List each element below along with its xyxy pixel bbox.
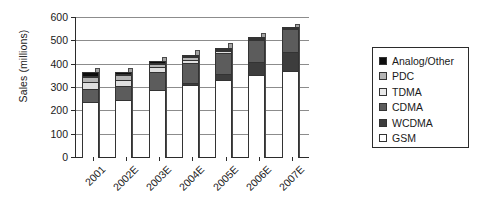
stacked-bar-chart: Sales (millions) 01002003004005006002001… xyxy=(0,0,479,216)
x-axis-tick xyxy=(192,157,193,161)
legend-swatch-analog-other xyxy=(379,57,387,65)
x-axis-tick xyxy=(126,157,127,161)
bar-segment-cdma xyxy=(182,63,199,84)
y-axis-tick-label: 500 xyxy=(50,34,68,46)
bar-group: 2001 xyxy=(76,17,109,157)
bar-group: 2004E xyxy=(176,17,209,157)
bar-group: 2002E xyxy=(109,17,142,157)
legend-label: GSM xyxy=(392,133,416,144)
y-axis-tick-label: 400 xyxy=(50,58,68,70)
plot-area: 010020030040050060020012002E2003E2004E20… xyxy=(75,17,309,158)
x-axis-tick xyxy=(159,157,160,161)
bar-segment-cdma xyxy=(215,53,232,75)
x-axis-tick-label: 2006E xyxy=(244,163,274,193)
x-axis-tick-label: 2001 xyxy=(82,163,107,188)
legend-item: PDC xyxy=(379,69,468,85)
legend-item: TDMA xyxy=(379,84,468,100)
stacked-bar xyxy=(248,33,265,157)
bar-segment-gsm xyxy=(215,80,232,158)
y-axis-tick-label: 300 xyxy=(50,81,68,93)
y-axis-tick xyxy=(71,157,76,158)
x-axis-tick xyxy=(259,157,260,161)
chart-legend: Analog/OtherPDCTDMACDMAWCDMAGSM xyxy=(372,47,469,148)
x-axis-tick-label: 2003E xyxy=(144,163,174,193)
bar-segment-cdma xyxy=(115,86,132,101)
bar-segment-cdma xyxy=(282,29,299,52)
bar-segment-cdma xyxy=(149,72,166,92)
bar-segment-wcdma xyxy=(248,62,265,76)
bar-segment-gsm xyxy=(149,90,166,158)
y-axis-tick-label: 200 xyxy=(50,104,68,116)
x-axis-tick xyxy=(226,157,227,161)
x-axis-tick-label: 2004E xyxy=(177,163,207,193)
stacked-bar xyxy=(215,43,232,157)
legend-item: Analog/Other xyxy=(379,53,468,69)
bar-segment-wcdma xyxy=(282,52,299,72)
y-axis-title: Sales (millions) xyxy=(17,11,29,121)
legend-swatch-wcdma xyxy=(379,119,387,127)
legend-item: CDMA xyxy=(379,100,468,116)
legend-label: TDMA xyxy=(392,87,422,98)
stacked-bar xyxy=(282,24,299,157)
y-axis-tick-label: 0 xyxy=(62,151,68,163)
x-axis-tick xyxy=(93,157,94,161)
bar-segment-gsm xyxy=(282,71,299,159)
bar-segment-gsm xyxy=(115,100,132,158)
bar-segment-gsm xyxy=(248,75,265,158)
x-axis-tick xyxy=(292,157,293,161)
legend-item: WCDMA xyxy=(379,115,468,131)
legend-swatch-gsm xyxy=(379,134,387,142)
bar-group: 2003E xyxy=(143,17,176,157)
stacked-bar xyxy=(149,57,166,157)
stacked-bar xyxy=(115,68,132,157)
y-axis-tick-label: 100 xyxy=(50,128,68,140)
legend-label: CDMA xyxy=(392,102,423,113)
y-axis-tick-label: 600 xyxy=(50,11,68,23)
x-axis-tick-label: 2007E xyxy=(277,163,307,193)
bar-group: 2007E xyxy=(276,17,309,157)
bar-segment-cdma xyxy=(82,89,99,103)
bar-group: 2006E xyxy=(242,17,275,157)
legend-label: Analog/Other xyxy=(392,56,454,67)
stacked-bar xyxy=(182,50,199,157)
legend-label: PDC xyxy=(392,71,414,82)
bar-group: 2005E xyxy=(209,17,242,157)
legend-swatch-pdc xyxy=(379,72,387,80)
legend-swatch-cdma xyxy=(379,103,387,111)
bar-segment-gsm xyxy=(82,102,99,158)
x-axis-tick-label: 2005E xyxy=(210,163,240,193)
bar-segment-cdma xyxy=(248,40,265,63)
legend-swatch-tdma xyxy=(379,88,387,96)
legend-item: GSM xyxy=(379,131,468,147)
bar-segment-gsm xyxy=(182,85,199,159)
legend-label: WCDMA xyxy=(392,118,433,129)
stacked-bar xyxy=(82,68,99,157)
x-axis-tick-label: 2002E xyxy=(110,163,140,193)
